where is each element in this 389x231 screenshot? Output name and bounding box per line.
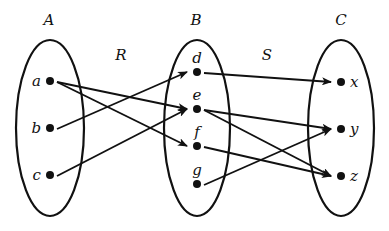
- element-label: b: [31, 119, 41, 137]
- set-A: Aabc: [16, 11, 84, 216]
- relation-diagram: AabcBdefgCxyz RS: [0, 0, 389, 231]
- element-label: d: [192, 49, 202, 67]
- arrow-g-to-y: [204, 129, 331, 185]
- relation-label-R: R: [114, 46, 126, 64]
- element-c: c: [33, 166, 54, 184]
- element-label: y: [349, 120, 359, 138]
- element-x: x: [337, 73, 359, 91]
- element-label: e: [193, 86, 202, 104]
- element-label: c: [33, 166, 42, 184]
- element-z: z: [337, 167, 358, 185]
- element-dot: [193, 180, 201, 188]
- element-f: f: [193, 123, 202, 150]
- element-label: a: [32, 72, 41, 90]
- element-dot: [193, 68, 201, 76]
- element-y: y: [337, 120, 359, 138]
- element-dot: [337, 78, 345, 86]
- relation-label-S: S: [262, 46, 272, 64]
- set-label: A: [42, 11, 55, 29]
- element-label: f: [193, 123, 202, 141]
- element-b: b: [31, 119, 54, 137]
- element-d: d: [192, 49, 202, 76]
- set-label: B: [189, 11, 201, 29]
- element-dot: [193, 105, 201, 113]
- element-dot: [337, 172, 345, 180]
- arrow-b-to-d: [57, 72, 187, 129]
- set-label: C: [335, 11, 347, 29]
- sets-layer: AabcBdefgCxyz: [16, 11, 374, 216]
- element-dot: [46, 124, 54, 132]
- element-dot: [193, 142, 201, 150]
- element-g: g: [192, 161, 202, 188]
- element-dot: [46, 171, 54, 179]
- element-e: e: [193, 86, 202, 113]
- element-label: z: [349, 167, 358, 185]
- set-C: Cxyz: [308, 11, 374, 216]
- element-a: a: [32, 72, 54, 90]
- arrow-f-to-z: [204, 147, 331, 176]
- set-B: Bdefg: [164, 11, 230, 216]
- element-label: g: [192, 161, 202, 179]
- element-label: x: [350, 73, 359, 91]
- element-dot: [46, 77, 54, 85]
- element-dot: [337, 125, 345, 133]
